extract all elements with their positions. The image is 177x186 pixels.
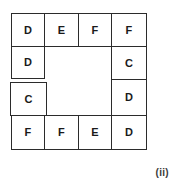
grid-cell-r4c1[interactable]: F bbox=[11, 115, 45, 150]
grid-cell-r2c1[interactable]: D bbox=[11, 46, 45, 79]
grid-cell-letter: E bbox=[91, 127, 99, 138]
grid-cell-letter: D bbox=[24, 24, 32, 35]
figure-label: (ii) bbox=[156, 167, 169, 178]
grid-cell-r1c2[interactable]: E bbox=[44, 13, 79, 47]
grid-cell-letter: D bbox=[125, 92, 133, 103]
grid-cell-r1c1[interactable]: D bbox=[11, 13, 45, 47]
grid-cell-r4c4[interactable]: D bbox=[111, 115, 147, 150]
grid-cell-letter: F bbox=[92, 24, 99, 35]
grid-cell-r3c1[interactable]: C bbox=[10, 82, 47, 116]
grid-cell-letter: F bbox=[58, 127, 65, 138]
grid-cell-letter: E bbox=[58, 24, 66, 35]
grid-cell-r4c2[interactable]: F bbox=[44, 115, 79, 150]
grid-cell-letter: D bbox=[125, 127, 133, 138]
grid-cell-letter: F bbox=[25, 127, 32, 138]
grid-cell-r3c4[interactable]: D bbox=[111, 79, 147, 116]
grid-cell-r2c4[interactable]: C bbox=[111, 46, 147, 80]
grid-cell-r1c3[interactable]: F bbox=[78, 13, 112, 47]
grid-cell-letter: F bbox=[126, 24, 133, 35]
grid-cell-letter: C bbox=[125, 57, 133, 68]
grid-cell-letter: C bbox=[24, 93, 32, 104]
grid-cell-r4c3[interactable]: E bbox=[78, 115, 112, 150]
letter-grid-figure: D E F F D C C D F F E D (ii) bbox=[0, 0, 177, 186]
grid-cell-letter: D bbox=[24, 57, 32, 68]
grid-cell-r1c4[interactable]: F bbox=[111, 13, 147, 47]
